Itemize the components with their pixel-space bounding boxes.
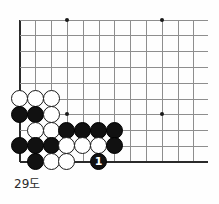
board-gridline-horizontal xyxy=(20,20,209,21)
stone-black[interactable] xyxy=(74,122,91,139)
star-point xyxy=(65,18,69,22)
stone-white[interactable] xyxy=(43,106,60,123)
board-gridline-vertical xyxy=(146,20,147,162)
stone-white[interactable] xyxy=(43,122,60,139)
stone-white[interactable] xyxy=(43,153,60,170)
stone-white[interactable] xyxy=(11,90,28,107)
stone-black[interactable] xyxy=(11,106,28,123)
board-gridline-horizontal xyxy=(20,67,209,68)
stone-black[interactable] xyxy=(27,137,44,154)
board-gridline-vertical xyxy=(193,20,194,162)
stone-black[interactable] xyxy=(90,122,107,139)
stone-black[interactable] xyxy=(106,122,123,139)
stone-white[interactable] xyxy=(58,153,75,170)
stone-black[interactable] xyxy=(43,137,60,154)
board-gridline-vertical xyxy=(178,20,179,162)
diagram-root: 1 29도 xyxy=(0,0,219,204)
stone-black[interactable] xyxy=(27,106,44,123)
board-gridline-horizontal xyxy=(20,83,209,84)
star-point xyxy=(160,18,164,22)
stone-white[interactable] xyxy=(27,90,44,107)
star-point xyxy=(65,112,69,116)
stone-white[interactable] xyxy=(27,122,44,139)
stone-white[interactable] xyxy=(43,90,60,107)
stone-black[interactable] xyxy=(106,137,123,154)
board-gridline-horizontal xyxy=(20,51,209,52)
star-point xyxy=(160,112,164,116)
stone-black[interactable] xyxy=(27,153,44,170)
board-gridline-vertical xyxy=(162,20,163,162)
go-board[interactable]: 1 xyxy=(0,0,219,180)
stone-white[interactable] xyxy=(90,137,107,154)
stone-move-number: 1 xyxy=(91,154,106,170)
board-gridline-horizontal xyxy=(20,35,209,36)
diagram-caption: 29도 xyxy=(14,177,40,191)
board-gridline-vertical xyxy=(130,20,131,162)
stone-white[interactable] xyxy=(74,137,91,154)
stone-black[interactable] xyxy=(11,137,28,154)
stone-black[interactable] xyxy=(58,122,75,139)
stone-white[interactable] xyxy=(58,137,75,154)
stone-black-move-1[interactable]: 1 xyxy=(90,153,107,170)
